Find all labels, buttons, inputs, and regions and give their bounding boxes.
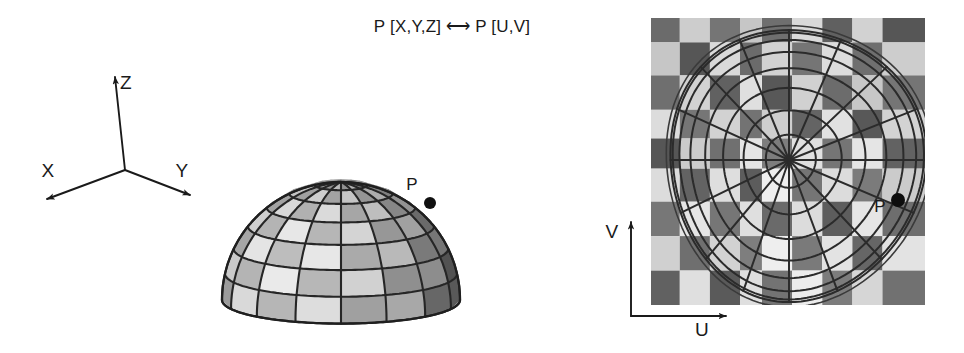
texture-checker-cell: [883, 18, 926, 42]
texture-checker-cell: [792, 236, 822, 270]
texture-checker-cell: [822, 139, 852, 169]
texture-checker-cell: [651, 202, 680, 236]
dome-point-p-marker: [424, 197, 436, 209]
figure-graphics: [0, 0, 964, 353]
world-axes-group: [47, 77, 190, 199]
texture-checker-cell: [651, 139, 680, 169]
world-axis-x: [47, 170, 125, 199]
dome-point-label-p: P: [406, 176, 417, 193]
texture-checker-cell: [651, 236, 680, 270]
texture-checker-cell: [852, 139, 882, 169]
dome-group: [222, 180, 460, 324]
texture-checker-cell: [883, 236, 926, 270]
texture-checker-cell: [710, 202, 740, 236]
texture-checker-cell: [883, 42, 926, 75]
texture-checker-cell: [680, 271, 710, 305]
texture-map-group: [651, 18, 931, 307]
axis-label-v: V: [605, 222, 618, 241]
axis-label-x: X: [41, 161, 54, 180]
axis-label-u: U: [695, 320, 709, 339]
texture-checker-cell: [883, 271, 926, 305]
axis-label-y: Y: [175, 161, 188, 180]
texture-checker-cell: [710, 18, 740, 42]
texture-checker-cell: [740, 110, 762, 139]
mapping-equation-label: P [X,Y,Z] ⟷ P [U,V]: [374, 18, 530, 35]
axis-label-z: Z: [120, 73, 132, 92]
texture-point-p-marker: [891, 193, 905, 207]
texture-checker-cell: [651, 42, 680, 75]
figure-canvas: P [X,Y,Z] ⟷ P [U,V] Z X Y P P V U: [0, 0, 964, 353]
texture-checker-cell: [792, 169, 822, 202]
texture-checker-cell: [852, 18, 882, 42]
texture-point-label-p: P: [874, 198, 885, 215]
texture-checker-cell: [651, 18, 680, 42]
texture-checker-cell: [680, 18, 710, 42]
texture-checker-cell: [762, 236, 792, 270]
texture-checker-cell: [651, 75, 680, 109]
texture-checker-cell: [651, 271, 680, 305]
